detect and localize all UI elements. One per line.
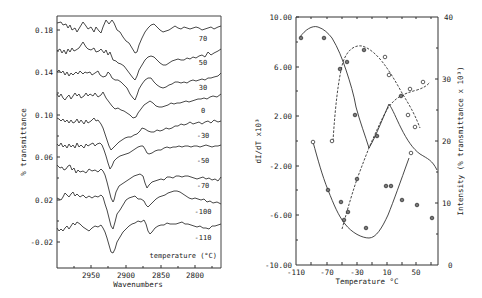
left-x-axis-label: Wavenumbers bbox=[113, 280, 163, 289]
left-y-axis: 0.18 0.14 0.10 0.06 0.02 -0.02 bbox=[30, 26, 60, 247]
y-tick-label: -6.00 bbox=[269, 211, 292, 220]
y-tick-label: -2.00 bbox=[269, 162, 292, 171]
right-panel: 10.00 6.00 2.00 -2.00 -6.00 -10.00 dI/dT… bbox=[254, 13, 465, 286]
left-plot-frame bbox=[57, 17, 221, 115]
y-tick-label: 0.14 bbox=[35, 68, 54, 77]
right-left-y-axis: 10.00 6.00 2.00 -2.00 -6.00 -10.00 bbox=[265, 13, 299, 270]
y2-tick-label: 40 bbox=[444, 13, 454, 22]
x-tick-label: -70 bbox=[320, 268, 334, 277]
y-tick-label: -0.02 bbox=[30, 238, 53, 247]
x-tick-label: 50 bbox=[411, 268, 421, 277]
y-tick-label: 2.00 bbox=[274, 112, 293, 121]
x-tick-label: -110 bbox=[287, 268, 306, 277]
y2-tick-label: 10 bbox=[442, 199, 452, 208]
curve-label: -50 bbox=[197, 157, 210, 165]
y-tick-label: 0.18 bbox=[35, 26, 54, 35]
series-intensity-solid-right bbox=[369, 104, 437, 170]
curve-label: -30 bbox=[197, 132, 210, 140]
right-x-axis: -110 -70 -30 10 50 bbox=[287, 262, 431, 277]
curve-label: 0 bbox=[201, 107, 205, 115]
y-tick-label: 6.00 bbox=[274, 63, 293, 72]
x-tick-label: -30 bbox=[350, 268, 364, 277]
right-y-axis-label: dI/dT x10³ bbox=[254, 118, 263, 163]
curve-label: -100 bbox=[195, 208, 212, 216]
x-tick-label: 2900 bbox=[117, 271, 136, 280]
legend-title: temperature (°C) bbox=[150, 252, 217, 260]
curve-labels: 70 50 30 0 -30 -50 -70 -100 -110 bbox=[195, 35, 212, 242]
spectrum-0 bbox=[57, 92, 221, 118]
y-tick-label: 0.06 bbox=[35, 153, 54, 162]
y-tick-label: 0.10 bbox=[35, 111, 54, 120]
spectrum-50 bbox=[57, 42, 221, 80]
y-tick-label: 10.00 bbox=[269, 13, 292, 22]
curve-label: -110 bbox=[195, 234, 212, 242]
left-x-axis: 2950 2900 2850 2800 bbox=[74, 265, 212, 280]
spectrum-minus50 bbox=[57, 143, 221, 169]
series-dIdT-solid bbox=[300, 27, 369, 148]
curve-label: 70 bbox=[199, 35, 207, 43]
figure: 0.18 0.14 0.10 0.06 0.02 -0.02 % transmi… bbox=[0, 0, 482, 298]
x-tick-label: 2950 bbox=[82, 271, 101, 280]
curve-label: 50 bbox=[199, 59, 207, 67]
y2-tick-label: 20 bbox=[442, 137, 452, 146]
series-markers bbox=[299, 36, 434, 230]
curve-label: 30 bbox=[199, 84, 207, 92]
y2-tick-label: 30 bbox=[442, 75, 452, 84]
y2-tick-label: 0 bbox=[448, 261, 453, 270]
right-x-axis-label: Temperature °C bbox=[335, 277, 398, 286]
x-tick-label: 10 bbox=[382, 268, 392, 277]
y-tick-label: 0.02 bbox=[35, 196, 53, 205]
curve-label: -70 bbox=[197, 182, 210, 190]
left-panel: 0.18 0.14 0.10 0.06 0.02 -0.02 % transmi… bbox=[19, 16, 221, 289]
x-tick-label: 2800 bbox=[186, 271, 205, 280]
right-y2-axis-label: Intensity (% transmittance x 10³) bbox=[456, 66, 465, 215]
spectrum-70 bbox=[57, 20, 221, 53]
x-tick-label: 2850 bbox=[152, 271, 171, 280]
left-y-axis-label: % transmittance bbox=[19, 108, 28, 176]
spectrum-30 bbox=[57, 70, 221, 100]
